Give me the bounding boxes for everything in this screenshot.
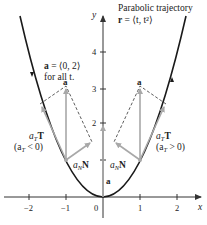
y-tick-label: 3 xyxy=(92,84,96,94)
vector-aT-left xyxy=(42,107,66,160)
curve-direction-arrow-left xyxy=(30,72,34,77)
point-right xyxy=(138,158,142,162)
label-aN-left: aNN xyxy=(73,160,89,171)
label-a-right: a xyxy=(137,77,142,87)
accel-note-line2: for all t. xyxy=(44,72,74,82)
accel-note-line1: a = ⟨0, 2⟩ xyxy=(44,61,81,71)
y-axis-label: y xyxy=(91,10,97,20)
point-left xyxy=(64,158,68,162)
x-tick-label: 1 xyxy=(138,203,142,213)
vector-aN-left xyxy=(66,143,90,160)
label-aN-right: aNN xyxy=(110,160,126,171)
label-aT-right: aTT xyxy=(156,131,171,142)
label-a-left: a xyxy=(63,77,68,87)
y-tick-label: 2 xyxy=(92,118,96,128)
y-tick-label: 4 xyxy=(92,47,97,57)
label-aT-left-condition: (aT < 0) xyxy=(14,142,43,153)
parabola-diagram: Parabolic trajectory r = ⟨t, t²⟩ a = ⟨0,… xyxy=(0,0,207,225)
label-a-origin: a xyxy=(106,176,111,186)
title-line2: r = ⟨t, t²⟩ xyxy=(118,15,153,25)
vector-aN-right xyxy=(116,143,140,160)
label-aT-left: aTT xyxy=(29,131,44,142)
title-line1: Parabolic trajectory xyxy=(118,3,193,13)
x-tick-label: −1 xyxy=(61,203,70,213)
x-axis-label: x xyxy=(197,202,203,212)
x-tick-label: 2 xyxy=(175,203,179,213)
x-tick-label: 0 xyxy=(94,203,98,213)
label-aT-right-condition: (aT > 0) xyxy=(156,142,185,153)
x-tick-label: −2 xyxy=(24,203,33,213)
